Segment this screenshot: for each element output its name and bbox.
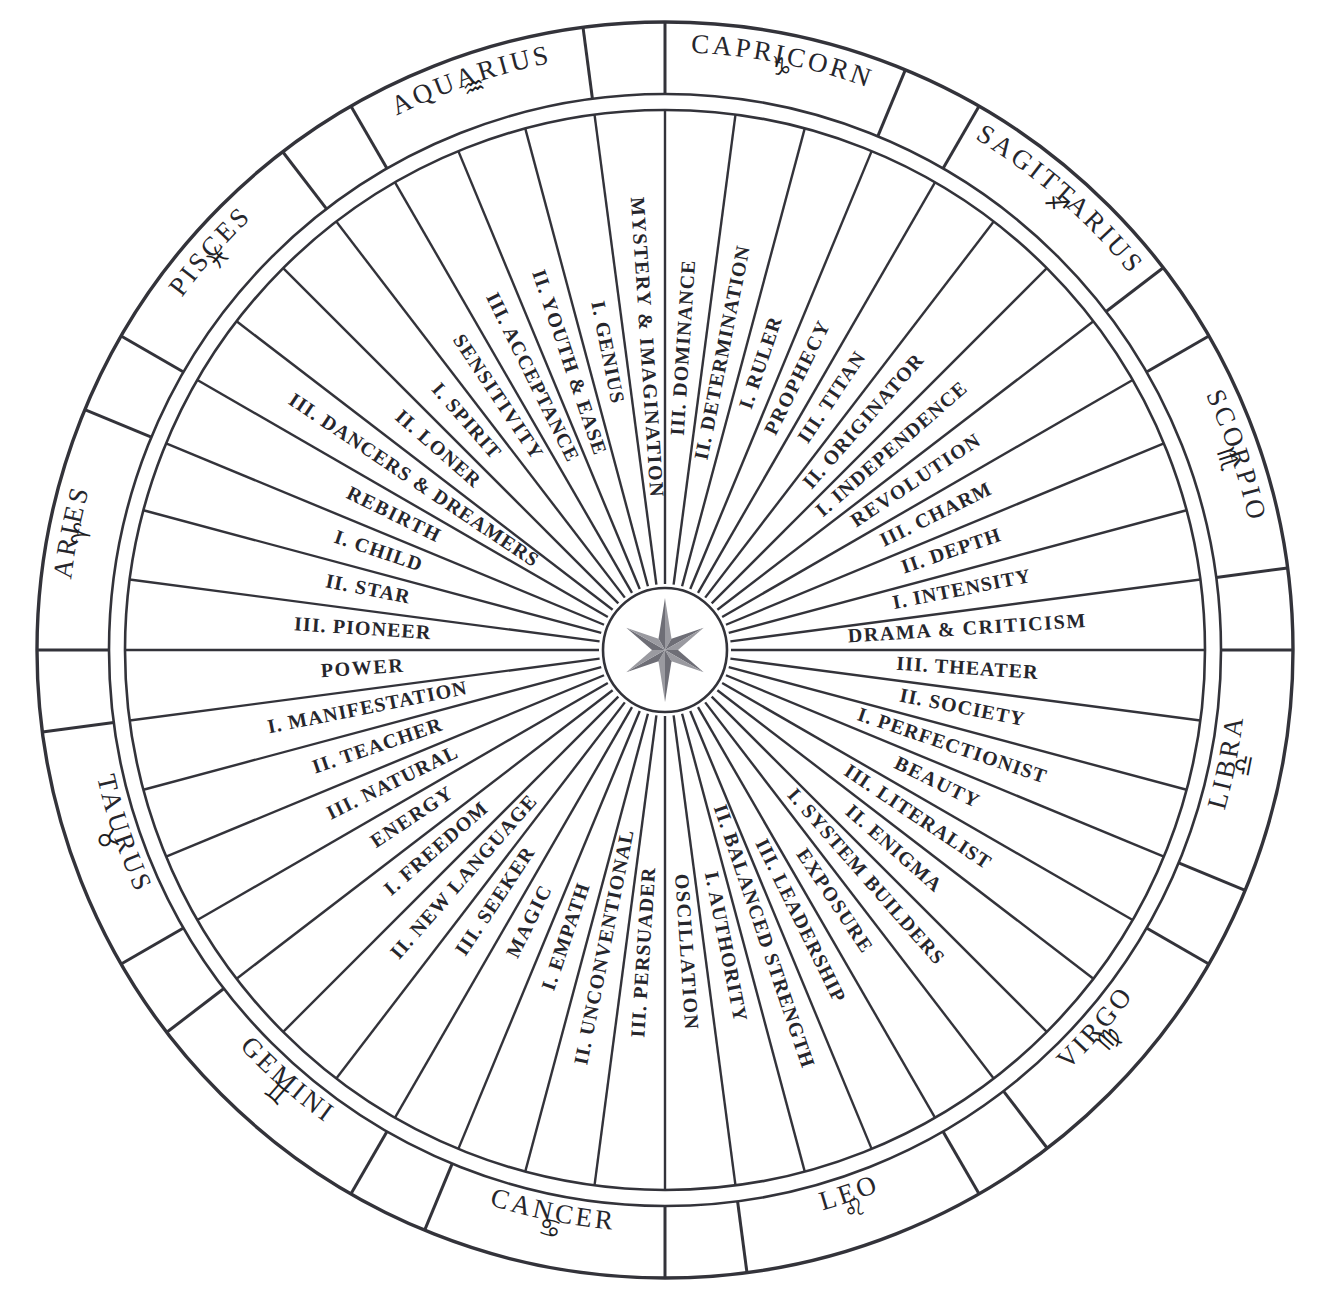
- sign-divider: [85, 410, 152, 438]
- decan-divider: [712, 268, 1047, 603]
- svg-text:III. DOMINANCE: III. DOMINANCE: [666, 259, 699, 437]
- sign-divider: [1147, 336, 1209, 372]
- sign-divider: [283, 152, 327, 209]
- sign-divider: [878, 70, 906, 137]
- sign-divider: [943, 106, 979, 168]
- svg-text:DRAMA & CRITICISM: DRAMA & CRITICISM: [847, 609, 1087, 647]
- sign-divider: [1216, 568, 1287, 577]
- sign-name: VIRGO: [1051, 980, 1140, 1075]
- svg-text:II. STAR: II. STAR: [324, 569, 413, 607]
- sign-name: GEMINI: [235, 1030, 341, 1128]
- sign-divider: [1179, 863, 1246, 891]
- decan-label: III. DOMINANCE: [666, 259, 699, 437]
- sign-divider: [1003, 1091, 1047, 1148]
- sign-divider: [121, 336, 183, 372]
- sign-divider: [42, 723, 113, 732]
- sign-divider: [425, 1164, 453, 1231]
- svg-text:III. PERSUADER: III. PERSUADER: [626, 866, 659, 1038]
- sign-divider: [583, 27, 592, 98]
- sign-divider: [943, 1132, 979, 1194]
- sign-divider: [1147, 928, 1209, 964]
- svg-text:POWER: POWER: [320, 654, 405, 681]
- decan-label: III. THEATER: [896, 652, 1040, 683]
- cusp-label: MYSTERY & IMAGINATION: [627, 196, 669, 499]
- decan-label: II. STAR: [324, 569, 413, 607]
- wheel-canvas: MYSTERY & IMAGINATIONIII. DOMINANCEII. D…: [0, 0, 1330, 1306]
- cusp-label: POWER: [320, 654, 405, 681]
- sign-divider: [738, 1201, 747, 1272]
- decan-label: I. GENIUS: [587, 299, 629, 406]
- cusp-label: DRAMA & CRITICISM: [847, 609, 1087, 647]
- sign-divider: [121, 928, 183, 964]
- hub-layer: [603, 588, 727, 712]
- svg-text:III. THEATER: III. THEATER: [896, 652, 1040, 683]
- sign-divider: [351, 106, 387, 168]
- sign-divider: [1106, 268, 1163, 312]
- svg-text:I. GENIUS: I. GENIUS: [587, 299, 629, 406]
- svg-text:MYSTERY & IMAGINATION: MYSTERY & IMAGINATION: [627, 196, 669, 499]
- sign-divider: [167, 988, 224, 1032]
- decan-divider: [237, 321, 613, 610]
- zodiac-wheel-diagram: MYSTERY & IMAGINATIONIII. DOMINANCEII. D…: [0, 0, 1330, 1306]
- decan-label: III. PERSUADER: [626, 866, 659, 1038]
- sign-divider: [351, 1132, 387, 1194]
